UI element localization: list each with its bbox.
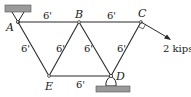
length-label-ae: 6' [21,43,30,54]
length-label-bd: 6' [84,43,93,54]
node-label-b: B [74,8,83,21]
load-label: 2 kips [163,43,191,54]
length-label-eb: 6' [56,43,65,54]
node-label-e: E [44,80,53,93]
length-label-cd: 6' [117,43,126,54]
truss-diagram: A B C D E 6' 6' 6' 6' 6' 6' 6' 2 kips [0,0,191,97]
load-arrow-head [164,35,171,41]
length-label-ed: 6' [76,79,85,90]
node-label-a: A [5,21,14,34]
length-label-bc: 6' [107,10,116,21]
length-label-ab: 6' [43,10,52,21]
ground-support-a [5,5,31,12]
node-label-d: D [115,70,125,83]
ground-support-d [96,86,130,92]
node-label-c: C [138,7,147,20]
